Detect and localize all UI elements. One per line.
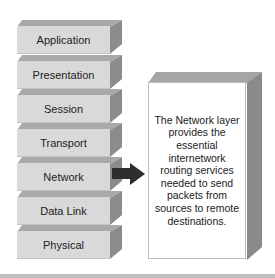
layer-label: Application xyxy=(17,26,110,54)
layer-label: Presentation xyxy=(17,61,110,89)
layer-physical: Physical xyxy=(17,225,122,259)
layer-transport: Transport xyxy=(17,123,122,157)
layer-label: Transport xyxy=(17,129,110,157)
bottom-divider xyxy=(0,274,275,278)
network-layer-callout: The Network layer provides the essential… xyxy=(148,72,262,262)
arrow-head xyxy=(130,163,145,185)
callout-text: The Network layer provides the essential… xyxy=(148,82,246,259)
callout-side-face xyxy=(247,72,262,260)
layer-data-link: Data Link xyxy=(17,191,122,225)
arrow-right-icon xyxy=(112,163,145,185)
layer-application: Application xyxy=(17,20,122,54)
layer-label: Session xyxy=(17,95,110,123)
layer-label: Physical xyxy=(17,231,110,259)
arrow-shaft xyxy=(112,168,131,179)
layer-label: Network xyxy=(17,163,110,191)
layer-presentation: Presentation xyxy=(17,55,122,89)
layer-network: Network xyxy=(17,157,122,191)
layer-label: Data Link xyxy=(17,197,110,225)
layer-session: Session xyxy=(17,89,122,123)
